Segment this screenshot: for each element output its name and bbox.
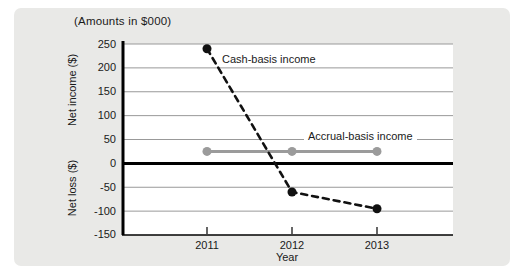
x-tick-2011: 2011 (177, 239, 237, 251)
y-tick-neg-50: -50 (74, 181, 116, 193)
x-tick-2013: 2013 (347, 239, 407, 251)
x-tick-2012: 2012 (262, 239, 322, 251)
y-tick-150: 150 (74, 85, 116, 97)
data-point-2011-cash-basis-income (203, 44, 212, 53)
accrual-basis-series-label: Accrual-basis income (304, 130, 417, 142)
x-axis-label-year: Year (257, 251, 317, 263)
data-point-2012-cash-basis-income (288, 188, 297, 197)
y-tick-50: 50 (74, 133, 116, 145)
y-tick-200: 200 (74, 61, 116, 73)
amounts-note: (Amounts in $000) (74, 15, 171, 27)
data-point-2013-accrual-basis-income (373, 147, 382, 156)
y-tick-100: 100 (74, 109, 116, 121)
data-point-2013-cash-basis-income (373, 204, 382, 213)
y-tick-neg-100: -100 (74, 205, 116, 217)
y-tick-neg-150: -150 (74, 228, 116, 240)
y-tick-250: 250 (74, 38, 116, 50)
data-point-2012-accrual-basis-income (288, 147, 297, 156)
cash-basis-series-label: Cash-basis income (222, 53, 316, 65)
data-point-2011-accrual-basis-income (203, 147, 212, 156)
figure-page: (Amounts in $000) Net income ($) Net los… (0, 0, 525, 279)
y-tick-0: 0 (74, 157, 116, 169)
